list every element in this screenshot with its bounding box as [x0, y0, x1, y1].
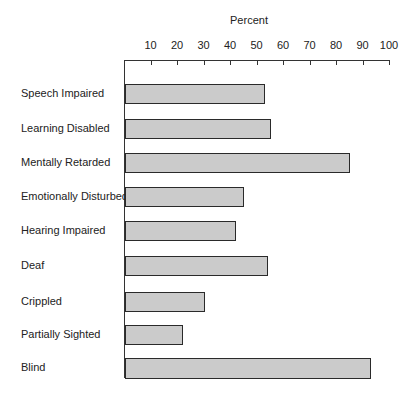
x-tick-label: 30: [197, 39, 209, 51]
category-label: Emotionally Disturbed: [21, 186, 128, 206]
category-label: Mentally Retarded: [21, 152, 110, 172]
x-tick-mark: [389, 60, 390, 65]
category-label: Speech Impaired: [21, 83, 104, 103]
x-tick-label: 70: [303, 39, 315, 51]
bar: [125, 221, 236, 241]
x-tick-label: 20: [171, 39, 183, 51]
x-tick-label: 50: [250, 39, 262, 51]
x-tick-label: 60: [277, 39, 289, 51]
bar: [125, 153, 350, 173]
bar: [125, 325, 183, 345]
bar: [125, 119, 271, 139]
category-label: Learning Disabled: [21, 118, 110, 138]
bar: [125, 84, 265, 104]
category-label: Deaf: [21, 255, 44, 275]
x-tick-label: 80: [330, 39, 342, 51]
x-tick-label: 100: [380, 39, 398, 51]
x-tick-label: 10: [144, 39, 156, 51]
category-label: Partially Sighted: [21, 324, 101, 344]
x-tick-label: 40: [224, 39, 236, 51]
category-label: Blind: [21, 357, 45, 377]
bar: [125, 187, 244, 207]
x-axis-line: [124, 60, 389, 61]
x-axis-label: Percent: [0, 14, 414, 26]
bar: [125, 256, 268, 276]
category-label: Crippled: [21, 291, 62, 311]
bar-chart: Percent 102030405060708090100 Speech Imp…: [0, 0, 414, 407]
bar: [125, 292, 205, 312]
bar: [125, 358, 371, 379]
category-label: Hearing Impaired: [21, 220, 105, 240]
x-tick-label: 90: [356, 39, 368, 51]
